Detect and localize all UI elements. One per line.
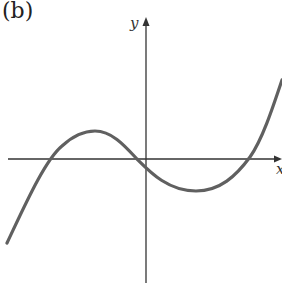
y-axis-label: y <box>130 14 138 32</box>
x-axis-label: x <box>276 160 282 178</box>
cubic-curve <box>7 80 282 243</box>
graph-canvas <box>0 0 282 283</box>
y-axis-arrow-icon <box>143 17 150 26</box>
cubic-graph-figure: (b) y x <box>0 0 282 283</box>
